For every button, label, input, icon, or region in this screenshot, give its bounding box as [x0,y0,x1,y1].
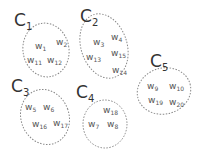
word-w13: w13 [86,53,101,63]
word-w7: w7 [88,120,99,130]
word-w11: w11 [27,56,42,66]
word-w8: w8 [107,120,118,130]
word-w5: w5 [25,103,36,113]
word-w14: w14 [112,66,127,76]
word-w19: w19 [148,96,163,106]
word-w1: w1 [35,42,46,52]
word-w9: w9 [147,82,158,92]
word-w6: w6 [43,103,54,113]
word-w10: w10 [169,82,184,92]
word-w15: w15 [111,49,126,59]
cluster-label-c2: C2 [80,8,98,28]
word-w2: w2 [56,38,67,48]
cluster-label-c3: C3 [11,78,29,98]
word-w18: w18 [103,106,118,116]
word-w12: w12 [47,56,62,66]
cluster-label-c4: C4 [76,84,94,104]
word-w16: w16 [32,120,47,130]
word-w20: w20 [169,98,184,108]
cluster-label-c5: C5 [150,53,168,73]
word-w4: w4 [111,33,122,43]
cluster-label-c1: C1 [14,12,32,32]
word-w17: w17 [53,119,68,129]
word-w3: w3 [93,38,104,48]
